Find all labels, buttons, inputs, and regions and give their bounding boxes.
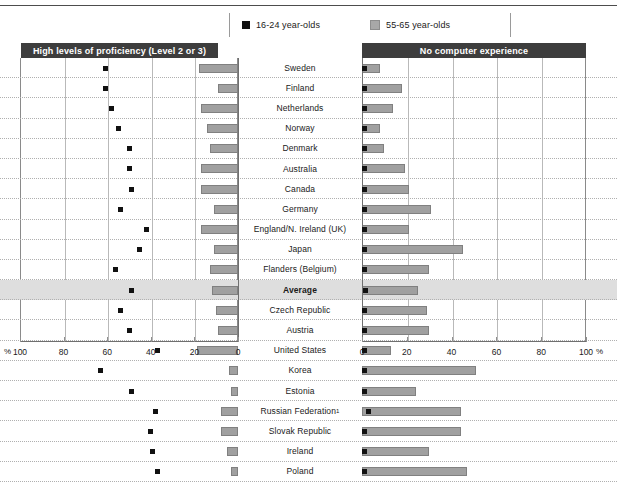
bar-left-old — [216, 306, 238, 315]
bar-left-old — [207, 124, 238, 133]
table-row: Norway — [0, 119, 617, 139]
legend-swatch-old-icon — [370, 20, 380, 30]
bar-right-old — [362, 387, 416, 396]
bar-left-old — [199, 64, 238, 73]
tick-label-right-60: 60 — [492, 347, 501, 357]
bar-left-old — [201, 164, 238, 173]
marker-left-young — [155, 348, 160, 353]
tick-left-60 — [107, 337, 108, 342]
tick-label-right-40: 40 — [447, 347, 456, 357]
tick-label-left-60: 60 — [102, 347, 111, 357]
bar-left-old — [214, 245, 238, 254]
tick-label-right-80: 80 — [536, 347, 545, 357]
marker-left-young — [153, 409, 158, 414]
axis-baseline-left — [238, 58, 239, 342]
marker-right-young — [362, 126, 367, 131]
marker-left-young — [118, 308, 123, 313]
tick-left-40 — [151, 337, 152, 342]
marker-left-young — [129, 187, 134, 192]
country-label: Japan — [240, 240, 360, 259]
legend-swatch-young-icon — [242, 21, 250, 29]
marker-left-young — [129, 288, 134, 293]
table-row: Australia — [0, 159, 617, 179]
country-label: Russian Federation1 — [240, 401, 360, 420]
marker-left-young — [103, 66, 108, 71]
tick-label-left-100: 100 — [13, 347, 27, 357]
table-row: Flanders (Belgium) — [0, 260, 617, 280]
bar-right-old — [362, 467, 467, 476]
marker-right-young — [362, 247, 367, 252]
country-label: Austria — [240, 320, 360, 339]
bar-left-old — [218, 326, 238, 335]
bar-right-old — [362, 366, 476, 375]
tick-label-left-40: 40 — [146, 347, 155, 357]
country-label: England/N. Ireland (UK) — [240, 220, 360, 239]
country-label: United States — [240, 341, 360, 360]
legend-item-young: 16-24 year-olds — [242, 20, 320, 30]
tick-right-20 — [407, 337, 408, 342]
table-row: Korea — [0, 361, 617, 381]
bar-right-old — [362, 265, 429, 274]
marker-right-young — [362, 66, 367, 71]
marker-left-young — [148, 429, 153, 434]
bar-left-old — [214, 205, 238, 214]
marker-left-young — [137, 247, 142, 252]
marker-left-young — [127, 328, 132, 333]
top-rule — [0, 5, 617, 6]
country-label: Australia — [240, 159, 360, 178]
country-label: Estonia — [240, 381, 360, 400]
country-label: Flanders (Belgium) — [240, 260, 360, 279]
bar-left-old — [221, 427, 238, 436]
marker-right-young — [362, 449, 367, 454]
chart-rows: SwedenFinlandNetherlandsNorwayDenmarkAus… — [0, 58, 617, 341]
table-row: Russian Federation1 — [0, 401, 617, 421]
legend: 16-24 year-olds 55-65 year-olds — [229, 13, 511, 37]
bar-left-old — [201, 185, 238, 194]
panel-title-right: No computer experience — [362, 43, 586, 58]
country-label: Korea — [240, 361, 360, 380]
country-label: Sweden — [240, 58, 360, 77]
legend-item-old: 55-65 year-olds — [370, 20, 450, 30]
marker-right-young — [362, 348, 367, 353]
tick-label-right-100: 100 — [579, 347, 593, 357]
marker-right-young — [362, 166, 367, 171]
legend-label-young: 16-24 year-olds — [256, 20, 320, 30]
bar-right-old — [362, 164, 405, 173]
axis-line-right — [362, 341, 586, 342]
tick-label-left-20: 20 — [190, 347, 199, 357]
marker-left-young — [116, 126, 121, 131]
tick-left-100 — [20, 337, 21, 342]
tick-right-40 — [452, 337, 453, 342]
bar-right-old — [362, 245, 463, 254]
bar-right-old — [362, 205, 431, 214]
marker-left-young — [113, 267, 118, 272]
country-label: Ireland — [240, 442, 360, 461]
bar-right-old — [362, 407, 461, 416]
bar-left-old — [218, 84, 238, 93]
bar-right-old — [362, 326, 429, 335]
country-label: Slovak Republic — [240, 421, 360, 440]
marker-right-young — [362, 227, 367, 232]
marker-left-young — [118, 207, 123, 212]
table-row: Canada — [0, 179, 617, 199]
table-row: Sweden — [0, 58, 617, 78]
tick-right-0 — [362, 337, 363, 342]
marker-right-young — [362, 207, 367, 212]
bar-right-old — [362, 427, 461, 436]
marker-right-young — [362, 389, 367, 394]
tick-label-right-20: 20 — [402, 347, 411, 357]
marker-right-young — [363, 288, 368, 293]
table-row: Slovak Republic — [0, 421, 617, 441]
tick-left-80 — [64, 337, 65, 342]
bar-right-old — [362, 225, 409, 234]
marker-right-young — [362, 106, 367, 111]
table-row: Ireland — [0, 442, 617, 462]
table-row: Estonia — [0, 381, 617, 401]
table-row: Japan — [0, 240, 617, 260]
bar-left-old — [197, 346, 238, 355]
country-label: Average — [240, 280, 360, 299]
marker-left-young — [127, 166, 132, 171]
legend-label-old: 55-65 year-olds — [386, 20, 450, 30]
bar-left-old — [229, 366, 238, 375]
marker-right-young — [362, 308, 367, 313]
